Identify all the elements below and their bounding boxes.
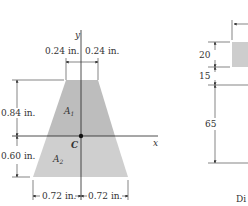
right-caption: Di — [236, 194, 246, 204]
centroid-diagram: y x C 0.24 in. 0.24 in. 0.84 in. 0.60 in… — [0, 0, 248, 206]
centroid-label: C — [71, 140, 79, 150]
right-dim-3: 65 — [205, 119, 217, 129]
dim-top-left-label: 0.24 in. — [45, 46, 80, 56]
right-shape-top-rect — [232, 42, 248, 67]
dim-top-right-label: 0.24 in. — [85, 46, 120, 56]
centroid-point — [79, 134, 83, 138]
dim-bottom-right-label: 0.72 in. — [88, 191, 123, 201]
y-axis-label: y — [74, 30, 81, 40]
dim-bottom-left-label: 0.72 in. — [42, 191, 77, 201]
right-dim-1: 20 — [199, 50, 211, 60]
dim-lower-height-label: 0.60 in. — [1, 151, 36, 161]
right-dim-2: 15 — [199, 71, 211, 81]
dim-upper-height-label: 0.84 in. — [1, 108, 36, 118]
x-axis-label: x — [153, 138, 158, 148]
trapezoid-lower-area — [33, 136, 128, 177]
